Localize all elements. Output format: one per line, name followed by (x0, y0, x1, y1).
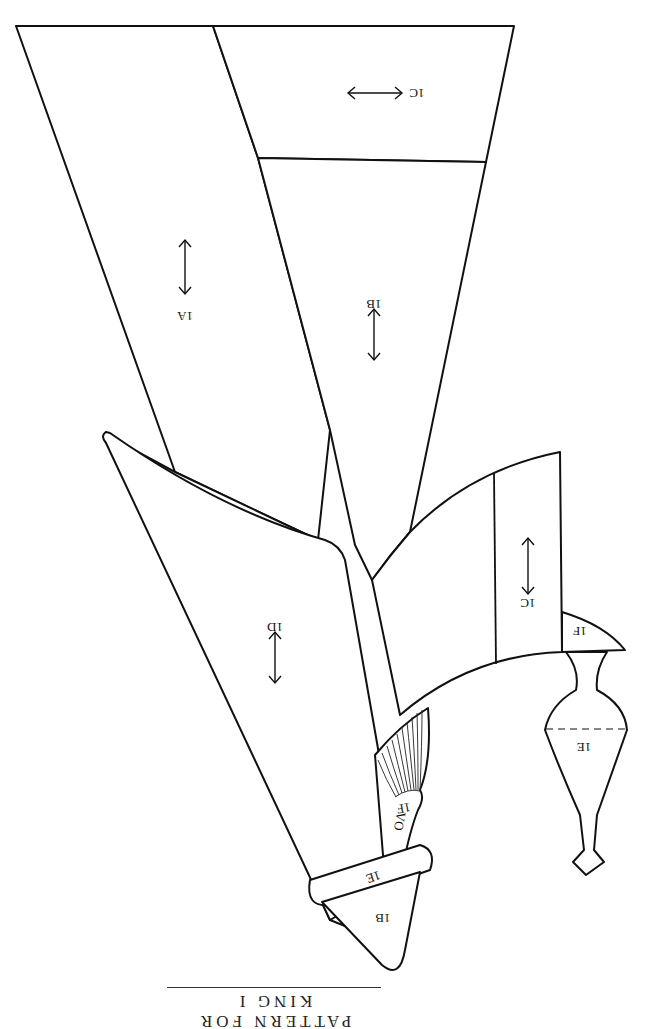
piece-1c-upper (213, 26, 514, 162)
label-1e-pommel: 1E (577, 740, 592, 755)
piece-1e-pommel (545, 652, 627, 875)
label-1f-right: 1F (573, 624, 587, 639)
caption: PATTERN FOR KING I (0, 985, 649, 1029)
label-1c-upper: 1C (409, 86, 424, 101)
piece-1f-right (562, 612, 625, 652)
pattern-title: PATTERN FOR KING I (167, 991, 381, 1029)
label-1b-tip: 1B (375, 911, 391, 926)
label-1d: 1D (267, 620, 283, 635)
label-1a: 1A (176, 309, 193, 324)
label-1b-upper: 1B (366, 297, 382, 312)
pattern-drawing: 1A 1B 1C 1D 1C 1F 1E 1F OΛ 1E 1B (0, 0, 649, 1029)
label-1c-lower: 1C (520, 596, 535, 611)
caption-rule (167, 987, 381, 988)
